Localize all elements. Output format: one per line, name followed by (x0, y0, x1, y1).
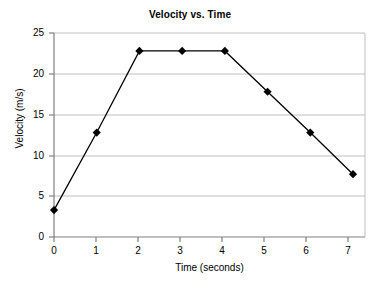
data-point-marker (93, 128, 101, 136)
series-line (54, 51, 353, 210)
data-point-marker (178, 47, 186, 55)
x-tick-label-4: 4 (210, 245, 234, 256)
gridlines (54, 33, 365, 196)
chart-container: Velocity vs. Time (0, 0, 380, 287)
x-tick-label-6: 6 (294, 245, 318, 256)
data-point-marker (135, 47, 143, 55)
x-tick-label-3: 3 (168, 245, 192, 256)
y-axis-title: Velocity (m/s) (14, 59, 25, 179)
x-tick-label-5: 5 (252, 245, 276, 256)
y-tick-label-0: 0 (14, 231, 44, 242)
plot-area (0, 0, 380, 287)
x-axis-ticks (54, 237, 348, 242)
data-point-marker (50, 206, 58, 214)
x-tick-label-0: 0 (42, 245, 66, 256)
series-markers (50, 47, 357, 214)
x-axis-title: Time (seconds) (54, 262, 365, 273)
x-tick-label-2: 2 (126, 245, 150, 256)
x-tick-label-1: 1 (84, 245, 108, 256)
plot-frame (54, 33, 365, 237)
y-tick-label-25: 25 (14, 27, 44, 38)
y-axis-ticks (49, 33, 54, 237)
y-tick-label-5: 5 (14, 190, 44, 201)
x-tick-label-7: 7 (336, 245, 360, 256)
